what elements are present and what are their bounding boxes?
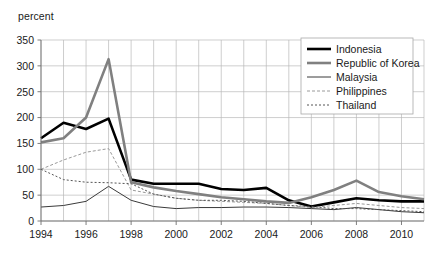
y-tick-label: 300 (16, 60, 34, 72)
legend-label-republic-of-korea: Republic of Korea (336, 57, 420, 69)
x-tick-label: 1998 (119, 228, 143, 240)
x-tick-label: 2004 (255, 228, 279, 240)
x-tick-label: 2006 (300, 228, 324, 240)
legend-label-indonesia: Indonesia (336, 43, 382, 55)
line-chart-svg: 050100150200250300350 199419961998200020… (0, 0, 433, 259)
y-tick-label: 350 (16, 34, 34, 46)
x-tick-label: 1996 (74, 228, 98, 240)
y-tick-label: 0 (28, 215, 34, 227)
x-tick-label: 2010 (390, 228, 414, 240)
chart-legend: IndonesiaRepublic of KoreaMalaysiaPhilip… (301, 38, 420, 114)
y-tick-label: 200 (16, 111, 34, 123)
legend-label-malaysia: Malaysia (336, 71, 378, 83)
y-tick-label: 100 (16, 163, 34, 175)
legend-label-thailand: Thailand (336, 99, 376, 111)
x-tick-label: 1994 (29, 228, 53, 240)
x-axis-ticks-group: 199419961998200020022004200620082010 (29, 221, 413, 240)
chart-container: percent 050100150200250300350 1994199619… (0, 0, 433, 259)
y-tick-label: 150 (16, 137, 34, 149)
x-tick-label: 2002 (210, 228, 234, 240)
legend-label-philippines: Philippines (336, 85, 387, 97)
x-tick-label: 2000 (164, 228, 188, 240)
y-tick-label: 250 (16, 86, 34, 98)
y-axis-ticks-group: 050100150200250300350 (16, 34, 41, 227)
x-tick-label: 2008 (345, 228, 369, 240)
y-tick-label: 50 (22, 189, 34, 201)
